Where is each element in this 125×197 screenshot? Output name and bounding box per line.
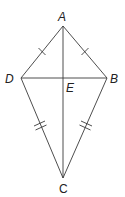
tick-mark-bc-2 (80, 125, 91, 130)
label-c: C (59, 182, 68, 196)
label-d: D (5, 72, 14, 86)
kite-figure: A D B E C (0, 0, 125, 197)
label-e: E (66, 81, 75, 95)
segment-cd (21, 78, 63, 178)
kite-diagram: A D B E C (0, 0, 125, 197)
label-b: B (110, 72, 118, 86)
label-a: A (57, 10, 66, 24)
